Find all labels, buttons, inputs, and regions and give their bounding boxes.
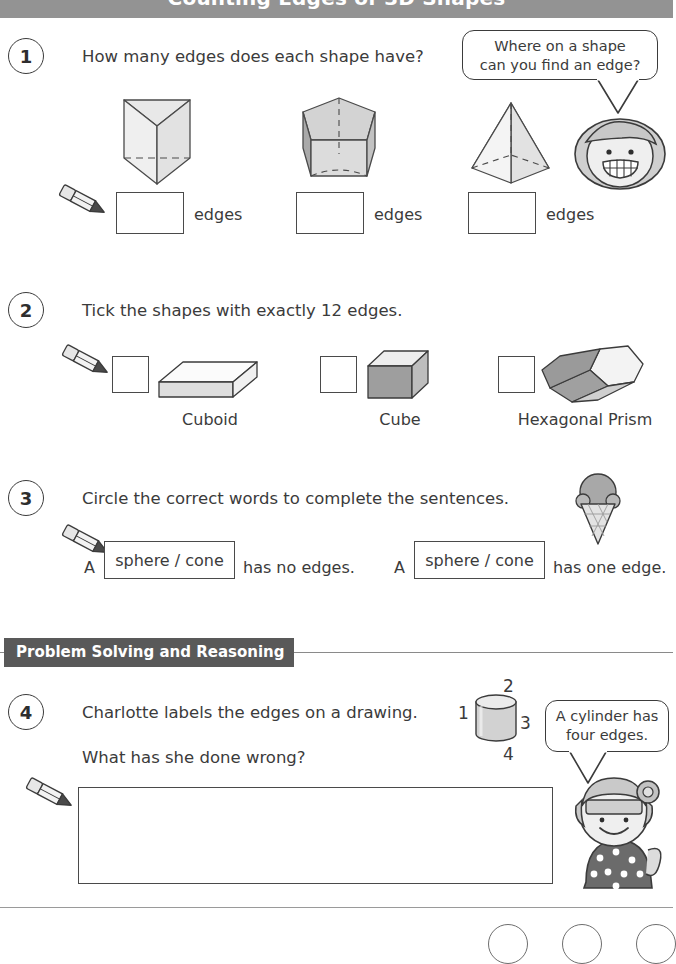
sentence-2-lead: A	[394, 558, 405, 577]
tick-box-cube[interactable]	[320, 356, 357, 393]
question-number-badge: 2	[8, 292, 44, 328]
pencil-icon	[55, 185, 111, 217]
section-label: Problem Solving and Reasoning	[4, 638, 294, 667]
edges-unit-label-2: edges	[374, 205, 422, 224]
hexagonal-prism-shape	[538, 344, 646, 406]
self-assessment-circle-3[interactable]	[636, 924, 676, 964]
cube-shape	[366, 348, 434, 403]
section-rule-right	[294, 652, 673, 653]
page-header: Counting Edges of 3D Shapes	[0, 0, 673, 18]
question-1-prompt: How many edges does each shape have?	[82, 47, 424, 66]
shape-label-cuboid: Cuboid	[140, 410, 280, 429]
speech-bubble-question-1: Where on a shape can you find an edge?	[462, 30, 658, 80]
tick-box-hexagonal-prism[interactable]	[498, 356, 535, 393]
cylinder-label-top: 2	[503, 676, 514, 696]
speech-bubble-line-1: Where on a shape	[471, 37, 649, 56]
answer-box-question-4[interactable]	[78, 787, 553, 884]
speech-bubble-line-2: four edges.	[554, 726, 660, 745]
section-header-problem-solving: Problem Solving and Reasoning	[0, 638, 673, 667]
shape-label-hexagonal-prism: Hexagonal Prism	[500, 410, 670, 429]
speech-bubble-tail-question-1	[596, 79, 640, 115]
question-4-prompt-line-2: What has she done wrong?	[82, 748, 306, 767]
speech-bubble-line-2: can you find an edge?	[471, 56, 649, 75]
sentence-1-tail: has no edges.	[243, 558, 355, 577]
girl-full-body-character	[556, 770, 668, 898]
pencil-icon	[58, 345, 114, 377]
question-3-prompt: Circle the correct words to complete the…	[82, 489, 509, 508]
question-3-number: 3	[8, 480, 44, 516]
cylinder-label-right: 3	[520, 713, 531, 733]
question-number-badge: 4	[8, 694, 44, 730]
pentagonal-prism-shape	[297, 96, 381, 188]
choice-box-sentence-1[interactable]: sphere / cone	[104, 541, 235, 579]
choice-text-sentence-2: sphere / cone	[425, 551, 534, 570]
edges-unit-label-1: edges	[194, 205, 242, 224]
sentence-1-lead: A	[84, 558, 95, 577]
question-2-number: 2	[8, 292, 44, 328]
triangular-prism-shape	[120, 96, 194, 188]
cylinder-label-bottom: 4	[503, 744, 514, 764]
cylinder-label-left: 1	[458, 703, 469, 723]
edges-unit-label-3: edges	[546, 205, 594, 224]
question-1-number: 1	[8, 38, 44, 74]
answer-box-edges-1[interactable]	[116, 192, 184, 234]
answer-box-edges-3[interactable]	[468, 192, 536, 234]
speech-bubble-line-1: A cylinder has	[554, 707, 660, 726]
question-number-badge: 1	[8, 38, 44, 74]
question-2-prompt: Tick the shapes with exactly 12 edges.	[82, 301, 402, 320]
pencil-icon	[22, 778, 78, 810]
speech-bubble-question-4: A cylinder has four edges.	[545, 700, 669, 752]
choice-text-sentence-1: sphere / cone	[115, 551, 224, 570]
sentence-2-tail: has one edge.	[553, 558, 666, 577]
square-pyramid-shape	[468, 100, 554, 186]
cylinder-shape	[473, 694, 519, 744]
self-assessment-circle-2[interactable]	[562, 924, 602, 964]
question-4-prompt-line-1: Charlotte labels the edges on a drawing.	[82, 703, 418, 722]
self-assessment-circle-1[interactable]	[488, 924, 528, 964]
ice-cream-cone-icon	[570, 470, 626, 546]
question-number-badge: 3	[8, 480, 44, 516]
choice-box-sentence-2[interactable]: sphere / cone	[414, 541, 545, 579]
cuboid-shape	[158, 352, 260, 400]
answer-box-edges-2[interactable]	[296, 192, 364, 234]
girl-face-character	[572, 112, 668, 190]
page-title: Counting Edges of 3D Shapes	[168, 0, 506, 10]
shape-label-cube: Cube	[330, 410, 470, 429]
question-4-number: 4	[8, 694, 44, 730]
tick-box-cuboid[interactable]	[112, 356, 149, 393]
footer-divider	[0, 907, 673, 908]
